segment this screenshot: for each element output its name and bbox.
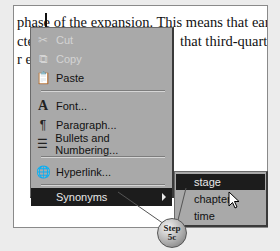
callout-lines	[0, 0, 280, 251]
step-badge: Step 5c	[157, 218, 187, 248]
